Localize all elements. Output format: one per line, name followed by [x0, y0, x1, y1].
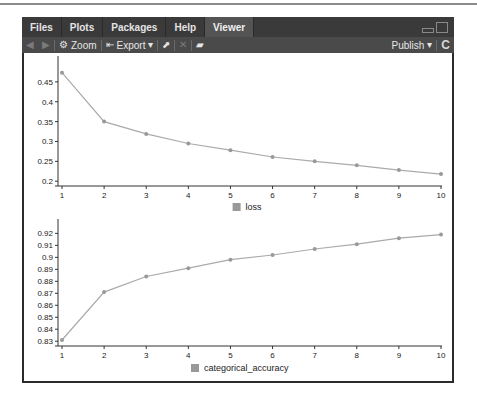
data-point[interactable] [186, 266, 190, 270]
y-tick-label: 0.85 [37, 313, 53, 322]
x-tick-label: 5 [228, 191, 233, 200]
x-tick-label: 2 [102, 191, 107, 200]
x-tick-label: 7 [312, 351, 317, 360]
y-tick-label: 0.89 [37, 265, 53, 274]
data-point[interactable] [60, 71, 64, 75]
accuracy-plot: 0.830.840.850.860.870.880.890.90.910.921… [37, 219, 446, 373]
data-point[interactable] [186, 141, 190, 145]
x-tick-label: 10 [437, 191, 446, 200]
x-tick-label: 6 [270, 351, 275, 360]
data-point[interactable] [102, 290, 106, 294]
data-point[interactable] [397, 236, 401, 240]
loss-plot: 0.20.250.30.350.40.4512345678910loss [37, 56, 446, 212]
x-tick-label: 1 [60, 351, 65, 360]
x-tick-label: 10 [437, 351, 446, 360]
y-tick-label: 0.92 [37, 229, 53, 238]
x-tick-label: 9 [397, 351, 402, 360]
loss-chart: 0.20.250.30.350.40.4512345678910loss0.83… [0, 0, 477, 405]
y-tick-label: 0.4 [42, 98, 54, 107]
data-point[interactable] [228, 148, 232, 152]
y-tick-label: 0.87 [37, 289, 53, 298]
data-point[interactable] [313, 159, 317, 163]
legend-label[interactable]: categorical_accuracy [204, 363, 289, 373]
data-point[interactable] [144, 132, 148, 136]
data-point[interactable] [144, 275, 148, 279]
y-tick-label: 0.83 [37, 337, 53, 346]
data-point[interactable] [60, 338, 64, 342]
x-tick-label: 5 [228, 351, 233, 360]
data-point[interactable] [271, 253, 275, 257]
y-tick-label: 0.86 [37, 301, 53, 310]
x-tick-label: 1 [60, 191, 65, 200]
x-tick-label: 9 [397, 191, 402, 200]
x-tick-label: 6 [270, 191, 275, 200]
y-tick-label: 0.3 [42, 137, 54, 146]
data-point[interactable] [271, 155, 275, 159]
legend-swatch[interactable] [233, 203, 241, 211]
data-point[interactable] [439, 233, 443, 237]
x-tick-label: 2 [102, 351, 107, 360]
data-point[interactable] [439, 172, 443, 176]
data-point[interactable] [313, 247, 317, 251]
y-tick-label: 0.84 [37, 325, 53, 334]
series-line [62, 73, 441, 174]
x-tick-label: 3 [144, 351, 149, 360]
legend-label[interactable]: loss [246, 202, 263, 212]
x-tick-label: 8 [355, 351, 360, 360]
y-tick-label: 0.35 [37, 118, 53, 127]
x-tick-label: 8 [355, 191, 360, 200]
data-point[interactable] [355, 163, 359, 167]
y-tick-label: 0.45 [37, 78, 53, 87]
y-tick-label: 0.25 [37, 157, 53, 166]
data-point[interactable] [102, 120, 106, 124]
y-tick-label: 0.88 [37, 277, 53, 286]
data-point[interactable] [228, 258, 232, 262]
y-tick-label: 0.2 [42, 177, 54, 186]
data-point[interactable] [397, 168, 401, 172]
x-tick-label: 7 [312, 191, 317, 200]
legend-swatch[interactable] [191, 364, 199, 372]
y-tick-label: 0.91 [37, 241, 53, 250]
x-tick-label: 4 [186, 351, 191, 360]
x-tick-label: 4 [186, 191, 191, 200]
series-line [62, 235, 441, 340]
x-tick-label: 3 [144, 191, 149, 200]
data-point[interactable] [355, 242, 359, 246]
y-tick-label: 0.9 [42, 253, 54, 262]
